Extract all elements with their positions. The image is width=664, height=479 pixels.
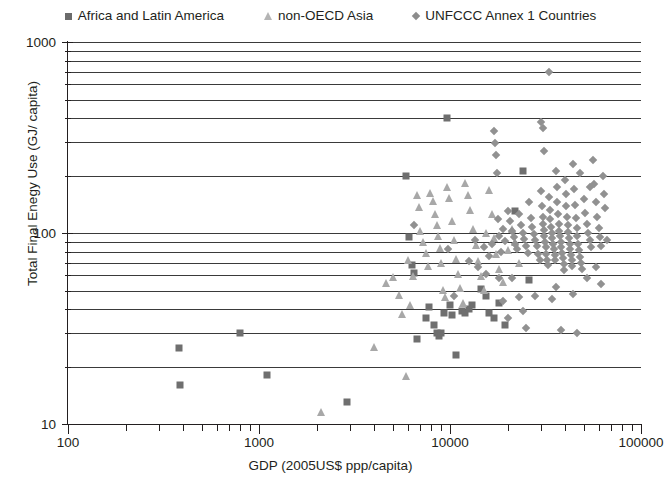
x-tick-minor [584, 425, 585, 431]
legend-item-africa-latin-america[interactable]: Africa and Latin America [65, 9, 224, 23]
x-tick-minor [622, 425, 623, 431]
y-tick-label: 10 [0, 417, 56, 432]
chart-legend: Africa and Latin America non-OECD Asia U… [0, 4, 661, 28]
gridline-horizontal [68, 275, 641, 276]
x-tick-label: 100 [57, 435, 80, 450]
x-tick-minor [599, 425, 600, 431]
x-tick-minor [183, 425, 184, 431]
x-tick-minor [441, 425, 442, 431]
y-tick-major [62, 42, 73, 43]
y-tick-minor [65, 118, 71, 119]
y-tick-minor [65, 263, 71, 264]
x-tick-minor [202, 425, 203, 431]
gridline-horizontal [68, 309, 641, 310]
y-tick-minor [65, 84, 71, 85]
x-tick-minor [229, 425, 230, 431]
legend-label: UNFCCC Annex 1 Countries [425, 9, 596, 23]
y-tick-minor [65, 51, 71, 52]
x-tick-major [641, 425, 642, 434]
y-tick-minor [65, 275, 71, 276]
x-tick-label: 100000 [618, 435, 663, 450]
x-tick-minor [317, 425, 318, 431]
y-tick-minor [65, 291, 71, 292]
x-axis-line [67, 424, 642, 425]
x-tick-minor [541, 425, 542, 431]
x-tick-minor [431, 425, 432, 431]
legend-item-non-oecd-asia[interactable]: non-OECD Asia [264, 9, 373, 23]
x-tick-major [450, 425, 451, 434]
gridline-horizontal [68, 118, 641, 119]
y-axis-title: Total Final Enegy Use (GJ/ capita) [25, 34, 40, 334]
legend-label: Africa and Latin America [78, 9, 224, 23]
gridline-horizontal [68, 367, 641, 368]
x-tick-minor [393, 425, 394, 431]
x-tick-minor [250, 425, 251, 431]
y-tick-minor [65, 333, 71, 334]
y-tick-minor [65, 309, 71, 310]
x-tick-minor [420, 425, 421, 431]
diamond-icon [412, 12, 420, 20]
y-tick-minor [65, 242, 71, 243]
y-tick-minor [65, 72, 71, 73]
x-tick-major [68, 425, 69, 434]
y-tick-major [62, 233, 73, 234]
gridline-horizontal [68, 176, 641, 177]
gridline-horizontal [68, 333, 641, 334]
legend-label: non-OECD Asia [278, 9, 373, 23]
x-tick-minor [374, 425, 375, 431]
y-tick-minor [65, 61, 71, 62]
legend-item-unfccc-annex-1[interactable]: UNFCCC Annex 1 Countries [413, 9, 596, 23]
y-tick-minor [65, 100, 71, 101]
x-tick-minor [632, 425, 633, 431]
gridline-horizontal [68, 61, 641, 62]
y-tick-major [62, 424, 73, 425]
gridline-horizontal [68, 252, 641, 253]
gridline-horizontal [68, 100, 641, 101]
gridline-horizontal [68, 142, 641, 143]
y-tick-minor [65, 252, 71, 253]
gridline-horizontal [68, 72, 641, 73]
x-tick-label: 1000 [244, 435, 274, 450]
y-tick-minor [65, 367, 71, 368]
x-tick-minor [350, 425, 351, 431]
x-tick-minor [565, 425, 566, 431]
x-axis-title: GDP (2005US$ ppp/capita) [0, 458, 661, 473]
x-tick-minor [508, 425, 509, 431]
y-tick-minor [65, 142, 71, 143]
gridline-horizontal [68, 42, 641, 43]
gridline-horizontal [68, 263, 641, 264]
plot-area [68, 42, 641, 424]
x-tick-minor [240, 425, 241, 431]
square-icon [65, 13, 72, 20]
gridline-horizontal [68, 291, 641, 292]
x-tick-minor [159, 425, 160, 431]
gridline-horizontal [68, 242, 641, 243]
y-tick-minor [65, 176, 71, 177]
gridline-horizontal [68, 233, 641, 234]
triangle-icon [264, 12, 272, 20]
gridline-horizontal [68, 84, 641, 85]
x-tick-minor [126, 425, 127, 431]
x-tick-label: 10000 [431, 435, 469, 450]
gridline-horizontal [68, 51, 641, 52]
x-tick-major [259, 425, 260, 434]
x-tick-minor [217, 425, 218, 431]
x-tick-minor [408, 425, 409, 431]
x-tick-minor [611, 425, 612, 431]
